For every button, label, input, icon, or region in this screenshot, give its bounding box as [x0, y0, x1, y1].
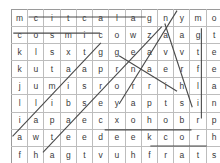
- word-search-cell[interactable]: k: [141, 129, 157, 146]
- word-search-cell[interactable]: t: [190, 146, 206, 163]
- word-search-cell[interactable]: v: [174, 44, 190, 61]
- word-search-cell[interactable]: l: [190, 78, 206, 95]
- word-search-cell[interactable]: a: [125, 10, 141, 27]
- word-search-cell[interactable]: c: [157, 129, 173, 146]
- word-search-cell[interactable]: o: [157, 112, 173, 129]
- word-search-cell[interactable]: s: [44, 44, 60, 61]
- word-search-cell[interactable]: e: [206, 44, 220, 61]
- word-search-cell[interactable]: g: [60, 146, 76, 163]
- word-search-cell[interactable]: z: [141, 27, 157, 44]
- word-search-cell[interactable]: a: [125, 95, 141, 112]
- word-search-cell[interactable]: a: [157, 27, 173, 44]
- word-search-cell[interactable]: i: [44, 95, 60, 112]
- word-search-cell[interactable]: a: [12, 129, 28, 146]
- word-search-cell[interactable]: e: [93, 95, 109, 112]
- word-search-cell[interactable]: r: [174, 61, 190, 78]
- word-search-cell[interactable]: h: [141, 112, 157, 129]
- word-search-cell[interactable]: v: [157, 44, 173, 61]
- word-search-cell[interactable]: e: [76, 129, 92, 146]
- word-search-cell[interactable]: s: [76, 78, 92, 95]
- word-search-cell[interactable]: o: [125, 112, 141, 129]
- word-search-cell[interactable]: c: [93, 112, 109, 129]
- word-search-cell[interactable]: x: [60, 44, 76, 61]
- word-search-cell[interactable]: g: [109, 44, 125, 61]
- word-search-cell[interactable]: r: [190, 112, 206, 129]
- word-search-cell[interactable]: e: [157, 61, 173, 78]
- word-search-cell[interactable]: j: [12, 78, 28, 95]
- word-search-cell[interactable]: o: [28, 27, 44, 44]
- word-search-cell[interactable]: s: [44, 27, 60, 44]
- word-search-cell[interactable]: c: [93, 27, 109, 44]
- word-search-cell[interactable]: i: [157, 78, 173, 95]
- word-search-cell[interactable]: t: [76, 146, 92, 163]
- word-search-cell[interactable]: t: [157, 95, 173, 112]
- word-search-cell[interactable]: i: [76, 27, 92, 44]
- word-search-cell[interactable]: w: [28, 129, 44, 146]
- word-search-cell[interactable]: i: [60, 78, 76, 95]
- word-search-cell[interactable]: u: [28, 78, 44, 95]
- word-search-cell[interactable]: x: [109, 112, 125, 129]
- word-search-cell[interactable]: e: [125, 44, 141, 61]
- word-search-cell[interactable]: k: [12, 44, 28, 61]
- word-search-cell[interactable]: f: [190, 61, 206, 78]
- word-search-cell[interactable]: t: [44, 61, 60, 78]
- word-search-cell[interactable]: m: [190, 10, 206, 27]
- word-search-cell[interactable]: a: [174, 146, 190, 163]
- word-search-cell[interactable]: a: [206, 78, 220, 95]
- word-search-cell[interactable]: t: [206, 27, 220, 44]
- word-search-cell[interactable]: r: [190, 129, 206, 146]
- word-search-cell[interactable]: g: [190, 27, 206, 44]
- word-search-cell[interactable]: r: [93, 78, 109, 95]
- word-search-cell[interactable]: p: [206, 112, 220, 129]
- word-search-cell[interactable]: b: [174, 112, 190, 129]
- word-search-cell[interactable]: r: [125, 78, 141, 95]
- word-search-cell[interactable]: w: [125, 27, 141, 44]
- word-search-cell[interactable]: c: [12, 27, 28, 44]
- word-search-cell[interactable]: a: [60, 61, 76, 78]
- word-search-cell[interactable]: m: [44, 78, 60, 95]
- word-search-cell[interactable]: h: [125, 146, 141, 163]
- word-search-cell[interactable]: o: [206, 10, 220, 27]
- word-search-cell[interactable]: n: [206, 95, 220, 112]
- word-search-cell[interactable]: e: [109, 129, 125, 146]
- word-search-cell[interactable]: c: [76, 10, 92, 27]
- word-search-cell[interactable]: n: [157, 10, 173, 27]
- word-search-cell[interactable]: f: [141, 146, 157, 163]
- word-search-cell[interactable]: a: [76, 61, 92, 78]
- word-search-cell[interactable]: u: [28, 61, 44, 78]
- word-search-cell[interactable]: r: [141, 78, 157, 95]
- word-search-cell[interactable]: a: [28, 112, 44, 129]
- word-search-cell[interactable]: g: [141, 10, 157, 27]
- word-search-cell[interactable]: p: [93, 61, 109, 78]
- word-search-cell[interactable]: h: [206, 129, 220, 146]
- word-search-cell[interactable]: p: [44, 112, 60, 129]
- word-search-cell[interactable]: b: [60, 95, 76, 112]
- word-search-cell[interactable]: k: [12, 61, 28, 78]
- word-search-cell[interactable]: l: [28, 95, 44, 112]
- word-search-cell[interactable]: y: [174, 10, 190, 27]
- word-search-cell[interactable]: a: [174, 27, 190, 44]
- word-search-cell[interactable]: r: [109, 61, 125, 78]
- word-search-cell[interactable]: h: [174, 78, 190, 95]
- word-search-cell[interactable]: o: [174, 129, 190, 146]
- word-search-cell[interactable]: c: [28, 10, 44, 27]
- word-search-cell[interactable]: e: [206, 61, 220, 78]
- word-search-cell[interactable]: i: [190, 95, 206, 112]
- word-search-cell[interactable]: e: [76, 112, 92, 129]
- word-search-cell[interactable]: a: [141, 44, 157, 61]
- word-search-cell[interactable]: o: [109, 27, 125, 44]
- word-search-cell[interactable]: u: [109, 146, 125, 163]
- word-search-cell[interactable]: r: [157, 146, 173, 163]
- word-search-cell[interactable]: t: [190, 44, 206, 61]
- word-search-cell[interactable]: l: [109, 10, 125, 27]
- word-search-cell[interactable]: a: [44, 146, 60, 163]
- word-search-cell[interactable]: l: [28, 44, 44, 61]
- word-search-cell[interactable]: t: [76, 44, 92, 61]
- word-search-cell[interactable]: m: [60, 27, 76, 44]
- word-search-cell[interactable]: a: [60, 112, 76, 129]
- word-search-cell[interactable]: i: [44, 10, 60, 27]
- word-search-cell[interactable]: s: [206, 146, 220, 163]
- word-search-cell[interactable]: a: [141, 61, 157, 78]
- word-search-cell[interactable]: p: [141, 95, 157, 112]
- word-search-cell[interactable]: h: [28, 146, 44, 163]
